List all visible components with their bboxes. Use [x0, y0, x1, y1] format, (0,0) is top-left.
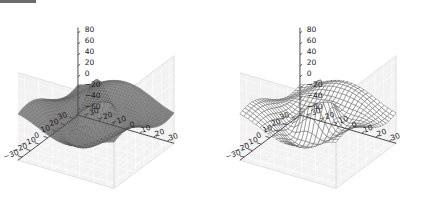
z-tick-label: −60	[307, 102, 323, 111]
z-tick-label: 80	[85, 25, 95, 34]
z-tick-label: 20	[307, 58, 317, 67]
z-tick-label: 40	[85, 47, 95, 56]
z-tick-label: 80	[307, 25, 317, 34]
z-tick-label: 20	[85, 58, 95, 67]
z-tick-label: 60	[307, 36, 317, 45]
z-tick-label: −60	[85, 102, 101, 111]
y-tick-label: 30	[389, 131, 401, 143]
z-tick-label: −40	[307, 91, 323, 100]
figure-canvas: −30−20−1001020303020100−10−20−3080604020…	[0, 0, 445, 220]
z-tick-label: −20	[307, 80, 323, 89]
left-plot-svg: −30−20−1001020303020100−10−20−3080604020…	[0, 0, 222, 220]
z-tick-label: 40	[307, 47, 317, 56]
z-tick-label: −20	[85, 80, 101, 89]
z-tick-label: 0	[307, 69, 312, 78]
right-plot-svg: −30−20−1001020303020100−10−20−3080604020…	[222, 0, 445, 220]
z-tick-label: 60	[85, 36, 95, 45]
left-surface-plot: −30−20−1001020303020100−10−20−3080604020…	[0, 0, 222, 220]
y-tick-label: 30	[167, 131, 179, 143]
z-tick-label: 0	[85, 69, 90, 78]
right-wireframe-plot: −30−20−1001020303020100−10−20−3080604020…	[222, 0, 444, 220]
z-tick-label: −40	[85, 91, 101, 100]
